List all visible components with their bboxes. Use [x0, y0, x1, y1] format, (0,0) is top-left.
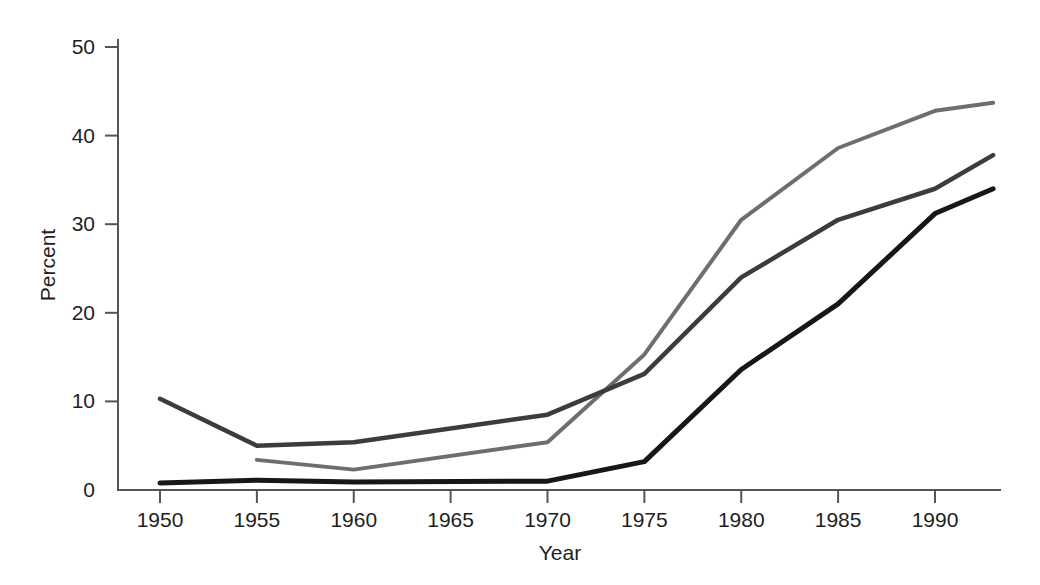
- y-tick-label-50: 50: [72, 35, 95, 58]
- x-tick-label-1965: 1965: [427, 508, 474, 531]
- series-group: [160, 103, 993, 483]
- x-tick-label-group: 195019551960196519701975198019851990: [137, 508, 959, 531]
- x-tick-label-1955: 1955: [234, 508, 281, 531]
- y-tick-label-0: 0: [83, 478, 95, 501]
- x-tick-label-1975: 1975: [621, 508, 668, 531]
- x-tick-label-1985: 1985: [815, 508, 862, 531]
- x-tick-label-1960: 1960: [330, 508, 377, 531]
- chart-canvas: 01020304050 Percent 19501955196019651970…: [0, 0, 1040, 585]
- y-tick-label-group: 01020304050: [72, 35, 95, 501]
- y-axis: 01020304050 Percent: [36, 35, 118, 501]
- x-tick-label-1970: 1970: [524, 508, 571, 531]
- x-tick-label-1980: 1980: [718, 508, 765, 531]
- series-dark-gray: [160, 155, 993, 446]
- x-tick-label-1990: 1990: [912, 508, 959, 531]
- line-chart: 01020304050 Percent 19501955196019651970…: [0, 0, 1040, 585]
- y-axis-title: Percent: [36, 229, 59, 302]
- x-tick-group: [160, 490, 935, 503]
- y-tick-label-20: 20: [72, 301, 95, 324]
- x-axis-title: Year: [539, 541, 581, 564]
- y-tick-label-10: 10: [72, 389, 95, 412]
- y-tick-group: [105, 47, 118, 401]
- x-axis: 195019551960196519701975198019851990 Yea…: [118, 490, 1000, 564]
- y-tick-label-30: 30: [72, 212, 95, 235]
- y-tick-label-40: 40: [72, 124, 95, 147]
- series-light-gray: [257, 103, 993, 470]
- series-black: [160, 189, 993, 483]
- x-tick-label-1950: 1950: [137, 508, 184, 531]
